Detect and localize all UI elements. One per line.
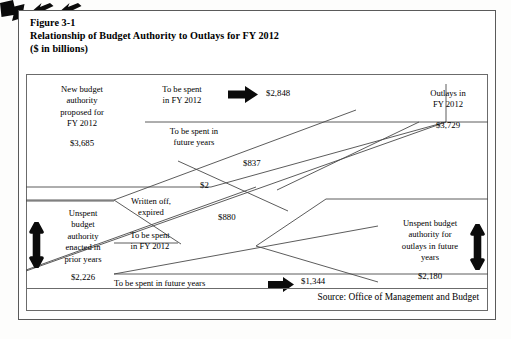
outlays-line1: Outlays in (404, 88, 492, 99)
caption-figure-number: Figure 3-1 (30, 16, 450, 29)
flow-prior-to-outlays-amount: $880 (218, 212, 236, 223)
new-ba-line3: proposed for (30, 107, 134, 118)
flow2-line1: To be spent in (150, 126, 238, 137)
double-arrow-vertical-icon (470, 224, 485, 270)
double-arrow-vertical-icon (29, 222, 44, 268)
unspent-future-line2: authority for (378, 229, 482, 240)
new-ba-line1: New budget (30, 84, 134, 95)
new-ba-line2: authority (30, 95, 134, 106)
outlays-line2: FY 2012 (404, 99, 492, 110)
caption-title: Relationship of Budget Authority to Outl… (30, 29, 450, 42)
flow-prior-to-outlays-label: To be spent in FY 2012 (114, 230, 186, 253)
flow-prior-to-future-amount: $1,344 (301, 276, 325, 287)
source-divider (26, 288, 488, 289)
new-ba-amount: $3,685 (30, 138, 134, 149)
flow4-line1: To be spent (114, 230, 186, 241)
source-note: Source: Office of Management and Budget (318, 292, 480, 302)
flow1-line1: To be spent (142, 84, 222, 95)
flow4-line2: in FY 2012 (114, 241, 186, 252)
flow-new-to-future-label: To be spent in future years (150, 126, 238, 149)
unspent-future-line1: Unspent budget (378, 218, 482, 229)
outlays-amount: $3,729 (404, 120, 492, 131)
block-unspent-future-years: Unspent budget authority for outlays in … (378, 218, 482, 282)
flow1-line2: in FY 2012 (142, 95, 222, 106)
figure-caption: Figure 3-1 Relationship of Budget Author… (30, 16, 450, 56)
arrow-right-icon (228, 86, 258, 103)
block-new-budget-authority: New budget authority proposed for FY 201… (30, 84, 134, 149)
arrow-right-icon (268, 277, 294, 292)
unspent-future-line3: outlays in future (378, 241, 482, 252)
flow2-line2: future years (150, 137, 238, 148)
caption-units: ($ in billions) (30, 42, 450, 55)
flow-new-to-outlays-amount: $2,848 (266, 88, 290, 99)
flow3-line1: Written off, (116, 196, 186, 207)
block-outlays-fy2012: Outlays in FY 2012 $3,729 (404, 88, 492, 131)
flow-new-to-future-amount: $837 (243, 158, 261, 169)
flow-written-off-amount: $2 (200, 180, 209, 191)
unspent-future-amount: $2,180 (378, 271, 482, 282)
flow3-line2: expired (116, 207, 186, 218)
unspent-prior-line5: prior years (40, 254, 126, 265)
flow-new-to-outlays-label: To be spent in FY 2012 (142, 84, 222, 107)
unspent-prior-line1: Unspent (40, 208, 126, 219)
flow-written-off-label: Written off, expired (116, 196, 186, 219)
figure-page: Figure 3-1 Relationship of Budget Author… (0, 0, 511, 339)
unspent-future-line4: years (378, 252, 482, 263)
new-ba-line4: FY 2012 (30, 118, 134, 129)
